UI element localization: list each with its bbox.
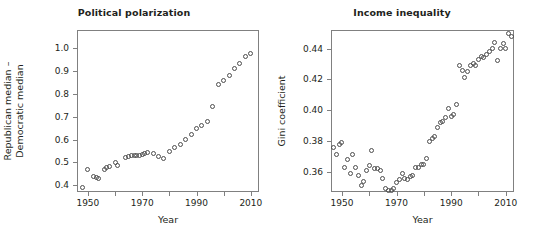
- figure-root: Political polarization Year Republican m…: [0, 0, 537, 241]
- chart-title-right: Income inequality: [268, 7, 536, 18]
- data-point: [80, 185, 85, 190]
- data-point: [194, 126, 199, 131]
- data-point: [232, 66, 237, 71]
- y-tick-label-0.8: 0.8: [0, 89, 69, 99]
- data-point: [378, 168, 383, 173]
- y-tick-label-0.36: 0.36: [268, 167, 323, 177]
- y-tick-label-0.44: 0.44: [268, 44, 323, 54]
- y-tick-label-0.42: 0.42: [268, 74, 323, 84]
- data-point: [348, 171, 353, 176]
- x-tick-label-1970: 1970: [385, 198, 408, 208]
- data-point: [435, 125, 440, 130]
- x-tick-1970: [397, 192, 398, 196]
- x-tick-2010: [251, 192, 252, 196]
- y-tick-0.42: [327, 79, 331, 80]
- y-tick-1.0: [73, 48, 77, 49]
- y-tick-0.7: [73, 117, 77, 118]
- data-point: [227, 73, 232, 78]
- data-point: [331, 145, 336, 150]
- x-tick-minor-2000: [224, 192, 225, 196]
- data-point: [454, 102, 459, 107]
- y-tick-0.36: [327, 172, 331, 173]
- x-tick-label-1950: 1950: [330, 198, 353, 208]
- data-point: [345, 157, 350, 162]
- y-tick-0.40: [327, 110, 331, 111]
- data-point: [498, 46, 503, 51]
- data-point: [151, 151, 156, 156]
- data-point: [509, 34, 514, 39]
- y-tick-0.8: [73, 94, 77, 95]
- y-tick-label-0.38: 0.38: [268, 136, 323, 146]
- x-tick-label-1950: 1950: [76, 198, 99, 208]
- data-point: [342, 165, 347, 170]
- x-axis-title-right: Year: [412, 214, 432, 225]
- y-tick-label-1.0: 1.0: [0, 43, 69, 53]
- data-point: [356, 173, 361, 178]
- panel-political-polarization: Political polarization Year Republican m…: [0, 0, 268, 241]
- data-point: [364, 168, 369, 173]
- x-tick-label-1990: 1990: [185, 198, 208, 208]
- x-tick-label-2010: 2010: [494, 198, 517, 208]
- x-tick-minor-2000: [478, 192, 479, 196]
- x-tick-label-1990: 1990: [440, 198, 463, 208]
- data-point: [205, 119, 210, 124]
- data-point: [359, 183, 364, 188]
- y-tick-label-0.6: 0.6: [0, 135, 69, 145]
- data-point: [490, 46, 495, 51]
- x-tick-minor-1980: [169, 192, 170, 196]
- data-point: [460, 68, 465, 73]
- y-tick-label-0.4: 0.4: [0, 180, 69, 190]
- y-tick-0.38: [327, 141, 331, 142]
- chart-title-left: Political polarization: [0, 7, 268, 18]
- x-tick-1990: [197, 192, 198, 196]
- y-tick-0.6: [73, 140, 77, 141]
- x-tick-label-1970: 1970: [131, 198, 154, 208]
- x-tick-1950: [88, 192, 89, 196]
- x-axis-title-left: Year: [158, 214, 178, 225]
- y-tick-label-0.5: 0.5: [0, 157, 69, 167]
- data-point: [424, 156, 429, 161]
- x-tick-minor-1960: [115, 192, 116, 196]
- data-point: [107, 164, 112, 169]
- x-tick-label-2010: 2010: [239, 198, 262, 208]
- data-point: [178, 142, 183, 147]
- data-point: [216, 82, 221, 87]
- y-tick-0.9: [73, 71, 77, 72]
- x-tick-1950: [342, 192, 343, 196]
- data-point: [397, 177, 402, 182]
- y-tick-0.5: [73, 162, 77, 163]
- x-tick-minor-1960: [369, 192, 370, 196]
- data-point: [361, 179, 366, 184]
- y-tick-label-0.7: 0.7: [0, 112, 69, 122]
- panel-income-inequality: Income inequality Year Gini coefficient …: [268, 0, 536, 241]
- y-tick-0.4: [73, 185, 77, 186]
- x-tick-2010: [506, 192, 507, 196]
- y-tick-label-0.40: 0.40: [268, 105, 323, 115]
- x-tick-1970: [142, 192, 143, 196]
- x-tick-1990: [451, 192, 452, 196]
- data-point: [115, 163, 120, 168]
- x-tick-minor-1980: [424, 192, 425, 196]
- data-point: [353, 165, 358, 170]
- y-tick-label-0.9: 0.9: [0, 66, 69, 76]
- y-tick-0.44: [327, 49, 331, 50]
